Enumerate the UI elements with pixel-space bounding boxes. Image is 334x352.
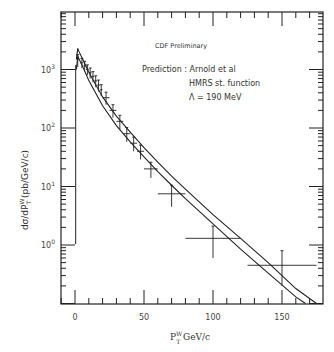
annotation-prediction: Prediction : Arnold et al: [142, 65, 236, 74]
x-tick-label: 50: [139, 313, 149, 322]
annotation-structure-function: HMRS st. function: [189, 79, 260, 88]
y-axis-label: dσ/dPWT (pb/GeV/c): [18, 150, 32, 230]
x-axis-label: PWT GeV/c: [170, 330, 210, 345]
y-tick-label: 102: [41, 121, 55, 133]
x-tick-label: 100: [205, 313, 220, 322]
chart: 050100150100101102103PWT GeV/cdσ/dPWT (p…: [0, 0, 334, 352]
plot-frame: [61, 12, 323, 304]
y-tick-label: 100: [41, 238, 55, 250]
y-tick-label: 103: [41, 63, 55, 75]
y-tick-label: 101: [41, 180, 55, 192]
x-tick-label: 0: [72, 313, 77, 322]
annotation-lambda: Λ = 190 MeV: [189, 93, 242, 102]
chart-title: CDF Preliminary: [155, 42, 207, 50]
x-tick-label: 150: [274, 313, 289, 322]
